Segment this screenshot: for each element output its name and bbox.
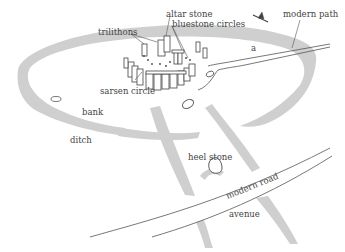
label-modern-path: modern path (283, 10, 338, 19)
label-ditch: ditch (70, 136, 92, 145)
label-sarsen-circle: sarsen circle (100, 87, 155, 96)
small-barrow (51, 97, 61, 102)
stonehenge-diagram: trilithons altar stone bluestone circles… (0, 0, 345, 252)
label-altar-stone: altar stone (166, 10, 212, 19)
label-trilithons: trilithons (98, 28, 137, 37)
label-avenue: avenue (229, 210, 260, 219)
bluestones (143, 55, 191, 67)
slaughter-stone-ring (181, 98, 195, 111)
label-bluestone-circles: bluestone circles (172, 20, 245, 29)
label-heel-stone: heel stone (188, 153, 232, 162)
diagram-canvas (0, 0, 345, 252)
label-bank: bank (82, 108, 103, 117)
label-station-marker: a (251, 44, 256, 53)
stone-circle (124, 36, 207, 90)
north-arrow-icon (253, 12, 268, 22)
